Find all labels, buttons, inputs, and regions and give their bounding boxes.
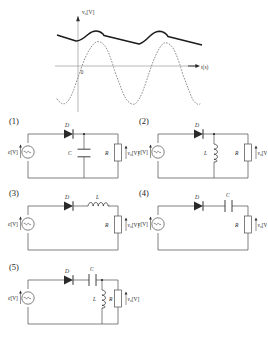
capacitor-symbol-icon bbox=[89, 274, 96, 286]
capacitor-symbol-icon bbox=[78, 149, 91, 157]
option-5-svg: e[V] D C L bbox=[6, 262, 136, 334]
ac-source-symbol-icon bbox=[152, 146, 164, 158]
diode-symbol-icon bbox=[62, 129, 82, 139]
option-5-diode-label: D bbox=[64, 268, 69, 274]
option-1-label: (1) bbox=[9, 116, 19, 126]
option-1-load-label: R bbox=[104, 150, 109, 156]
option-2-source-label: e[V] bbox=[138, 149, 148, 155]
source-polarity-arrow-icon bbox=[19, 291, 22, 304]
option-3-source-label: e[V] bbox=[8, 221, 18, 227]
option-3-load-label: R bbox=[104, 222, 109, 228]
diode-symbol-icon bbox=[192, 201, 212, 211]
diode-symbol-icon bbox=[62, 201, 82, 211]
circuit-option-1[interactable]: (1) bbox=[6, 116, 136, 188]
option-4-load-label: R bbox=[234, 222, 239, 228]
inductor-symbol-icon bbox=[102, 290, 105, 308]
source-polarity-arrow-icon bbox=[19, 145, 22, 158]
diode-symbol-icon bbox=[62, 275, 82, 285]
option-3-diode-label: D bbox=[64, 194, 69, 200]
ac-source-symbol-icon bbox=[22, 292, 34, 304]
inductor-symbol-icon bbox=[214, 144, 217, 162]
option-1-diode-label: D bbox=[64, 122, 69, 128]
ac-source-symbol-icon bbox=[22, 146, 34, 158]
option-1-svg: e[V] D C R bbox=[6, 116, 136, 188]
ac-source-symbol-icon bbox=[22, 218, 34, 230]
waveform-chart: vo[V] 0 t(s) bbox=[0, 0, 267, 116]
resistor-symbol-icon bbox=[245, 144, 252, 161]
origin-label: 0 bbox=[81, 69, 84, 75]
source-polarity-arrow-icon bbox=[19, 217, 22, 230]
resistor-symbol-icon bbox=[115, 290, 122, 307]
node-dot bbox=[83, 133, 85, 135]
option-5-label: (5) bbox=[9, 262, 19, 272]
option-3-label: (3) bbox=[9, 188, 19, 198]
option-2-label: (2) bbox=[139, 116, 149, 126]
option-2-shunt-label: L bbox=[203, 150, 207, 156]
figure-page: vo[V] 0 t(s) (1) bbox=[0, 0, 267, 339]
circuit-options-grid: (1) bbox=[0, 116, 267, 339]
resistor-symbol-icon bbox=[245, 216, 252, 233]
option-5-output-label: vo[V] bbox=[128, 296, 140, 303]
option-4-diode-label: D bbox=[194, 194, 199, 200]
inductor-symbol-icon bbox=[88, 203, 110, 206]
circuit-option-5[interactable]: (5) bbox=[6, 262, 136, 334]
x-axis-label: t(s) bbox=[201, 64, 209, 71]
option-4-output-label: vo[V] bbox=[258, 222, 268, 229]
option-2-load-label: R bbox=[234, 150, 239, 156]
ac-source-symbol-icon bbox=[152, 218, 164, 230]
input-sine-trace bbox=[57, 42, 200, 105]
option-5-load-label: R bbox=[108, 296, 113, 302]
source-polarity-arrow-icon bbox=[149, 217, 152, 230]
circuit-option-2[interactable]: (2) bbox=[136, 116, 266, 188]
option-5-source-label: e[V] bbox=[8, 295, 18, 301]
node-dot bbox=[213, 133, 215, 135]
option-2-output-label: vo[V] bbox=[258, 150, 268, 157]
source-polarity-arrow-icon bbox=[149, 145, 152, 158]
option-1-shunt-label: C bbox=[68, 150, 72, 156]
circuit-option-3[interactable]: (3) e[V] bbox=[6, 188, 136, 260]
option-1-source-label: e[V] bbox=[8, 149, 18, 155]
y-axis-label: vo[V] bbox=[82, 9, 94, 16]
option-3-series-label: L bbox=[95, 194, 99, 200]
option-5-series-label: C bbox=[90, 266, 94, 272]
option-4-source-label: e[V] bbox=[138, 221, 148, 227]
resistor-symbol-icon bbox=[115, 144, 122, 161]
output-ripple-trace bbox=[57, 31, 202, 45]
waveform-svg: vo[V] 0 t(s) bbox=[0, 0, 267, 116]
option-3-svg: e[V] D L R bbox=[6, 188, 136, 260]
circuit-option-4[interactable]: (4) e[V] bbox=[136, 188, 266, 260]
node-dot bbox=[101, 279, 103, 281]
option-2-diode-label: D bbox=[194, 122, 199, 128]
option-4-svg: e[V] D C R bbox=[136, 188, 266, 260]
option-4-label: (4) bbox=[139, 188, 149, 198]
resistor-symbol-icon bbox=[115, 216, 122, 233]
option-4-series-label: C bbox=[226, 192, 230, 198]
option-5-shunt-label: L bbox=[92, 296, 96, 302]
capacitor-symbol-icon bbox=[225, 200, 232, 212]
diode-symbol-icon bbox=[192, 129, 212, 139]
x-axis-arrow-icon bbox=[188, 64, 200, 68]
y-axis-arrow-icon bbox=[76, 16, 80, 21]
option-2-svg: e[V] D L R bbox=[136, 116, 266, 188]
